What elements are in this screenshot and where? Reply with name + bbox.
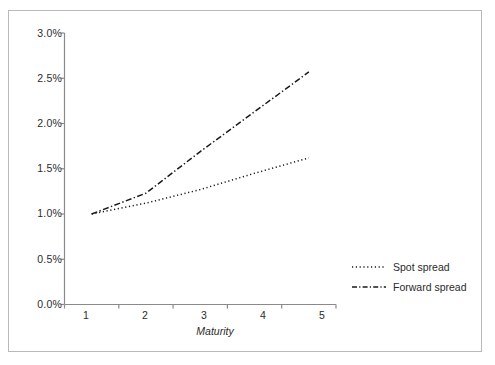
x-tick-label: 1 <box>74 309 98 321</box>
legend-swatch-dashdot <box>352 281 386 293</box>
legend-item-forward-spread: Forward spread <box>352 277 482 297</box>
y-tick-label: 2.0% <box>18 117 62 129</box>
series-line-forward-spread <box>92 72 309 214</box>
x-tick-label: 3 <box>192 309 216 321</box>
legend-label: Spot spread <box>393 261 450 273</box>
y-tick-label: 0.5% <box>18 253 62 265</box>
data-series-group <box>92 72 309 214</box>
x-tick-label: 2 <box>133 309 157 321</box>
y-tick-label: 1.5% <box>18 162 62 174</box>
y-tick-label: 2.5% <box>18 72 62 84</box>
series-line-spot-spread <box>92 158 309 214</box>
legend-item-spot-spread: Spot spread <box>352 257 482 277</box>
x-tick-label: 5 <box>310 309 334 321</box>
legend-label: Forward spread <box>393 281 467 293</box>
legend-swatch-dotted <box>352 261 386 273</box>
x-tick-label: 4 <box>251 309 275 321</box>
x-axis-title: Maturity <box>155 325 275 337</box>
y-tick-label: 3.0% <box>18 27 62 39</box>
chart-legend: Spot spread Forward spread <box>352 257 482 297</box>
y-tick-label: 0.0% <box>18 298 62 310</box>
y-tick-label: 1.0% <box>18 207 62 219</box>
